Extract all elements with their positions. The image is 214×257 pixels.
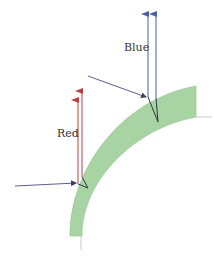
refraction-diagram xyxy=(0,0,214,257)
blue-label: Blue xyxy=(124,41,149,54)
red-label: Red xyxy=(57,127,79,140)
red-incident-ray xyxy=(15,183,76,186)
blue-incident-ray xyxy=(88,76,146,97)
droplet-band xyxy=(70,86,196,236)
